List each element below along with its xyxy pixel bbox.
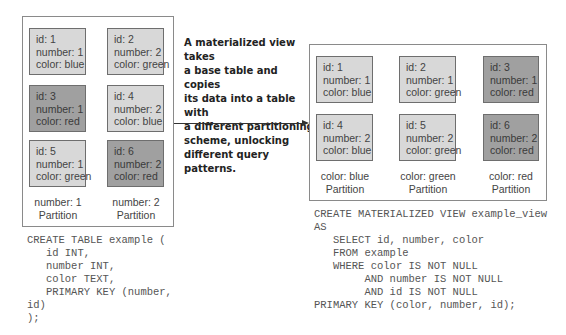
row-number: number: 1 (36, 158, 85, 171)
row-number: number: 2 (114, 46, 163, 59)
view-partition-label-blue: color: blue Partition (309, 170, 381, 196)
row-id: id: 4 (323, 119, 372, 132)
view-row-1: id: 1 number: 1 color: blue (316, 56, 373, 103)
view-partition-label-green: color: green Partition (392, 170, 464, 196)
row-color: color: blue (36, 58, 85, 71)
create-table-code: CREATE TABLE example ( id INT, number IN… (27, 234, 172, 325)
base-row-4: id: 4 number: 2 color: blue (107, 85, 164, 132)
row-id: id: 1 (36, 33, 85, 46)
row-id: id: 2 (406, 61, 455, 74)
base-row-6: id: 6 number: 2 color: red (107, 140, 164, 187)
partition-text: Partition (392, 183, 464, 196)
view-row-3: id: 3 number: 1 color: red (483, 56, 539, 103)
row-color: color: blue (323, 144, 372, 157)
row-color: color: red (36, 115, 85, 128)
row-number: number: 1 (490, 74, 538, 87)
row-number: number: 2 (114, 103, 163, 116)
base-row-3: id: 3 number: 1 color: red (29, 85, 86, 132)
view-row-5: id: 5 number: 2 color: green (399, 114, 456, 161)
row-number: number: 2 (323, 132, 372, 145)
callout-line: different query patterns. (184, 148, 314, 176)
callout-line: its data into a table with (184, 92, 314, 120)
row-number: number: 1 (36, 46, 85, 59)
row-color: color: blue (323, 86, 372, 99)
row-number: number: 1 (406, 74, 455, 87)
partition-text: Partition (309, 183, 381, 196)
base-row-5: id: 5 number: 1 color: green (29, 140, 86, 187)
row-number: number: 2 (406, 132, 455, 145)
row-color: color: green (406, 144, 455, 157)
partition-key: number: 1 (22, 196, 94, 209)
row-color: color: red (114, 170, 163, 183)
arrow-connector (174, 123, 303, 124)
view-partition-label-red: color: red Partition (475, 170, 547, 196)
row-id: id: 5 (406, 119, 455, 132)
create-materialized-view-code: CREATE MATERIALIZED VIEW example_view AS… (314, 208, 547, 312)
base-row-1: id: 1 number: 1 color: blue (29, 28, 86, 75)
base-partition-label-1: number: 1 Partition (22, 196, 94, 222)
row-number: number: 2 (114, 158, 163, 171)
partition-key: color: red (475, 170, 547, 183)
row-number: number: 2 (490, 132, 538, 145)
row-id: id: 6 (114, 145, 163, 158)
callout-line: A materialized view takes (184, 36, 314, 64)
row-color: color: blue (114, 115, 163, 128)
row-id: id: 6 (490, 119, 538, 132)
base-partition-label-2: number: 2 Partition (100, 196, 172, 222)
row-number: number: 1 (36, 103, 85, 116)
view-row-6: id: 6 number: 2 color: red (483, 114, 539, 161)
row-color: color: green (114, 58, 163, 71)
partition-text: Partition (100, 209, 172, 222)
row-color: color: green (406, 86, 455, 99)
callout-line: scheme, unlocking (184, 134, 314, 148)
partition-key: color: green (392, 170, 464, 183)
row-id: id: 5 (36, 145, 85, 158)
partition-key: number: 2 (100, 196, 172, 209)
callout-text: A materialized view takes a base table a… (184, 36, 314, 176)
partition-text: Partition (22, 209, 94, 222)
callout-line: a base table and copies (184, 64, 314, 92)
row-id: id: 4 (114, 90, 163, 103)
view-row-4: id: 4 number: 2 color: blue (316, 114, 373, 161)
partition-key: color: blue (309, 170, 381, 183)
row-color: color: red (490, 86, 538, 99)
row-number: number: 1 (323, 74, 372, 87)
arrow-head-icon (302, 120, 309, 126)
row-id: id: 2 (114, 33, 163, 46)
row-id: id: 3 (36, 90, 85, 103)
base-row-2: id: 2 number: 2 color: green (107, 28, 164, 75)
row-color: color: red (490, 144, 538, 157)
row-color: color: green (36, 170, 85, 183)
row-id: id: 1 (323, 61, 372, 74)
partition-text: Partition (475, 183, 547, 196)
row-id: id: 3 (490, 61, 538, 74)
view-row-2: id: 2 number: 1 color: green (399, 56, 456, 103)
